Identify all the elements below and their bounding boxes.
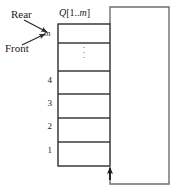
vertical-ellipsis-icon: · · · <box>80 45 88 60</box>
diagram-canvas <box>0 0 178 196</box>
cell-index-m: m <box>44 29 51 38</box>
wraparound-loop-connector <box>110 7 169 184</box>
array-label: Q[1..m] <box>59 8 90 18</box>
queue-array-diagram: Q[1..m] Rear Front m 4 3 2 1 · · · <box>0 0 178 196</box>
front-label: Front <box>5 43 29 54</box>
caption-fragment-strip <box>0 188 178 196</box>
cell-index-3: 3 <box>38 98 52 108</box>
cell-index-4: 4 <box>38 75 52 85</box>
ellipsis-dot-3: · <box>80 55 88 60</box>
rear-label: Rear <box>11 9 32 20</box>
cell-index-1: 1 <box>38 145 52 155</box>
cell-index-2: 2 <box>38 121 52 131</box>
array-label-range: [1..m] <box>66 7 90 18</box>
